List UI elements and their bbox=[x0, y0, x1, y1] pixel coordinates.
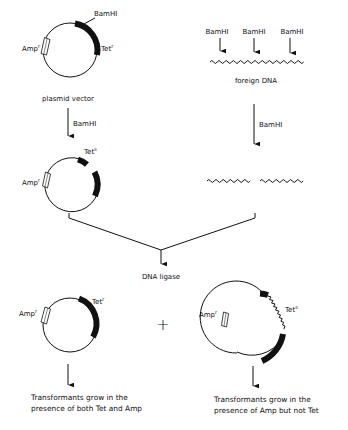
tet-fragment-1 bbox=[260, 294, 268, 296]
plus-sign: + bbox=[156, 315, 169, 334]
insert-dna bbox=[268, 296, 285, 329]
enzyme-label: BamHI bbox=[259, 121, 282, 129]
enzyme-label: BamHI bbox=[73, 120, 96, 128]
tet-label: Tets bbox=[284, 304, 298, 314]
bamhi-site-label: BamHI bbox=[242, 28, 265, 36]
plasmid-vector-label: plasmid vector bbox=[42, 95, 94, 103]
cloning-diagram: BamHI Ampr Tetr plasmid vector BamHI Amp… bbox=[0, 0, 348, 430]
amp-label: Ampr bbox=[22, 177, 41, 187]
ligation-step: DNA ligase bbox=[69, 213, 255, 281]
religated-vector: Ampr Tetr bbox=[19, 296, 105, 352]
amp-resistance-gene bbox=[41, 38, 50, 56]
amp-resistance-gene bbox=[43, 172, 51, 188]
foreign-dna-label: foreign DNA bbox=[235, 77, 277, 85]
tet-fragment-2 bbox=[262, 334, 283, 361]
plasmid-ring bbox=[45, 158, 99, 212]
dna-fragment bbox=[207, 180, 250, 183]
amp-resistance-gene bbox=[41, 307, 51, 324]
dna-strand bbox=[210, 61, 304, 64]
bamhi-pointer bbox=[82, 18, 95, 25]
amp-resistance-gene bbox=[222, 312, 229, 327]
amp-label: Ampr bbox=[199, 309, 218, 319]
result-text-line1: Transformants grow in the bbox=[213, 395, 311, 404]
dna-ligase-label: DNA ligase bbox=[142, 273, 180, 281]
amp-label: Ampr bbox=[19, 308, 38, 318]
tet-label: Tets bbox=[83, 146, 97, 156]
recombinant-plasmid: Ampr Tets bbox=[199, 281, 298, 361]
foreign-dna: BamHI BamHI BamHI foreign DNA bbox=[205, 28, 303, 85]
amp-label: Ampr bbox=[22, 43, 41, 53]
tet-resistance-gene bbox=[75, 24, 97, 56]
result-right: Transformants grow in the presence of Am… bbox=[213, 366, 319, 415]
foreign-digest-step: BamHI bbox=[254, 104, 282, 144]
result-text-line2: presence of Amp but not Tet bbox=[214, 406, 319, 415]
result-text-line1: Transformants grow in the bbox=[30, 393, 128, 402]
vector-digest-step: BamHI bbox=[68, 108, 96, 136]
tet-label: Tetr bbox=[100, 43, 114, 53]
bamhi-site-label: BamHI bbox=[94, 10, 117, 18]
result-text-line2: presence of both Tet and Amp bbox=[31, 404, 142, 413]
bamhi-site-label: BamHI bbox=[280, 28, 303, 36]
cut-plasmid: Ampr Tets bbox=[22, 146, 99, 212]
merge-bracket bbox=[69, 213, 255, 250]
dna-fragment bbox=[260, 180, 303, 183]
tet-label: Tetr bbox=[91, 296, 105, 306]
bamhi-site-label: BamHI bbox=[205, 28, 228, 36]
tet-fragment-2 bbox=[95, 172, 98, 196]
result-left: Transformants grow in the presence of bo… bbox=[30, 364, 142, 413]
tet-fragment-1 bbox=[78, 160, 87, 165]
plasmid-vector: BamHI Ampr Tetr plasmid vector bbox=[22, 10, 117, 103]
dna-fragments bbox=[207, 180, 303, 183]
